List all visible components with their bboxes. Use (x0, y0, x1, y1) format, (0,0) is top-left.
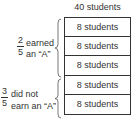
fraction-not-earned: 3 5 (1, 87, 8, 108)
tape-diagram: 8 students 8 students 8 students 8 stude… (64, 17, 131, 115)
label-not-earned-line2: earn an “A” (11, 101, 56, 112)
total-label: 40 students (64, 2, 131, 12)
tape-segment: 8 students (65, 95, 130, 114)
tape-segment: 8 students (65, 18, 130, 37)
numerator: 2 (18, 35, 23, 45)
denominator: 5 (2, 98, 7, 108)
label-not-earned-line1: did not (11, 89, 38, 100)
tape-segment: 8 students (65, 37, 130, 56)
label-earned-line1: earned (26, 38, 54, 49)
label-earned-line2: an “A” (26, 49, 51, 60)
tape-segment: 8 students (65, 76, 130, 95)
brace-earned-icon (54, 18, 62, 78)
tape-segment: 8 students (65, 56, 130, 75)
fraction-earned: 2 5 (17, 36, 24, 57)
brace-not-earned-icon (54, 78, 62, 119)
numerator: 3 (2, 86, 7, 96)
denominator: 5 (18, 47, 23, 57)
